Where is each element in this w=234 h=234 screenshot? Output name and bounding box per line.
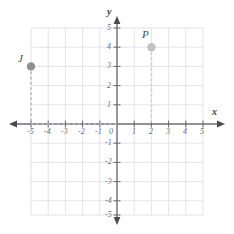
y-tick-label--2: -2 (105, 158, 112, 166)
x-tick-label--4: -4 (44, 128, 51, 136)
plot-point-J[interactable] (27, 62, 35, 70)
x-tick-label--1: -1 (95, 128, 102, 136)
y-tick-label--5: -5 (105, 211, 112, 219)
y-tick-label-2: 2 (107, 82, 111, 90)
y-tick-label--1: -1 (105, 139, 112, 147)
x-tick-label--3: -3 (61, 128, 68, 136)
x-axis-arrow-right (217, 121, 225, 128)
x-tick-label-5: 5 (200, 128, 204, 136)
y-axis-arrow-down (114, 217, 121, 225)
y-tick-label--3: -3 (105, 178, 112, 186)
x-axis-arrow-left (9, 121, 17, 128)
x-tick-label--5: -5 (27, 128, 34, 136)
x-axis-label: x (212, 107, 217, 117)
x-tick-label-3: 3 (166, 128, 170, 136)
x-tick-label-1: 1 (132, 128, 136, 136)
y-axis-arrow-up (114, 16, 121, 24)
x-tick-label-4: 4 (183, 128, 187, 136)
y-tick-label-3: 3 (107, 62, 111, 70)
coordinate-plane-graph: x y J P -5 -4 -3 -2 -1 0 1 2 3 4 5 5 4 3… (0, 0, 234, 234)
plot-area (0, 0, 234, 234)
y-tick-label-5: 5 (107, 24, 111, 32)
x-tick-label-0: 0 (109, 128, 113, 136)
x-tick-label--2: -2 (78, 128, 85, 136)
plot-point-P[interactable] (147, 43, 155, 51)
y-axis-label: y (107, 7, 111, 17)
point-label-J: J (18, 53, 23, 64)
y-tick-label-4: 4 (107, 43, 111, 51)
point-label-P: P (142, 29, 149, 40)
guide-lines-point-J (31, 66, 117, 124)
y-tick-label-1: 1 (107, 101, 111, 109)
x-tick-label-2: 2 (149, 128, 153, 136)
y-tick-label--4: -4 (105, 197, 112, 205)
